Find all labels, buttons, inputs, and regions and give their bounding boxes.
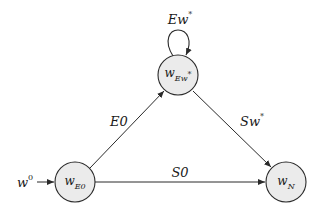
- edge-label-text: E0: [110, 114, 128, 129]
- node-label-w-e0: wE0: [64, 175, 85, 190]
- initial-state-label: w0: [17, 175, 33, 188]
- node-base: w: [277, 174, 287, 188]
- edge-label-e0: E0: [110, 115, 128, 128]
- node-base: w: [64, 174, 74, 188]
- node-sub: N: [288, 183, 295, 192]
- node-label-w-n: wN: [277, 175, 294, 190]
- edge-label-text: Ew: [168, 12, 189, 27]
- diagram-canvas: wE0 wEw* wN w0 E0 Sw* S0 Ew*: [0, 0, 317, 214]
- edge-label-s0: S0: [171, 166, 188, 179]
- node-sub: Ew: [175, 75, 188, 84]
- initial-base: w: [17, 175, 28, 190]
- edge-e0-arrow: [90, 91, 164, 168]
- edge-label-text: Sw: [240, 114, 260, 129]
- diagram-graphics: [0, 0, 317, 214]
- node-base: w: [165, 66, 175, 80]
- edge-sw-arrow: [193, 91, 271, 167]
- edge-label-text: S0: [171, 165, 188, 180]
- node-sub-star: *: [187, 70, 191, 79]
- edge-label-sw-star: Sw*: [240, 114, 264, 127]
- node-sub: E0: [75, 183, 86, 192]
- self-loop-arrow: [168, 30, 189, 56]
- edge-label-star: *: [188, 10, 192, 19]
- initial-sup: 0: [28, 173, 33, 182]
- edge-label-ew-star-loop: Ew*: [168, 12, 193, 25]
- edge-label-star: *: [260, 112, 264, 121]
- node-label-w-ew-star: wEw*: [165, 67, 192, 82]
